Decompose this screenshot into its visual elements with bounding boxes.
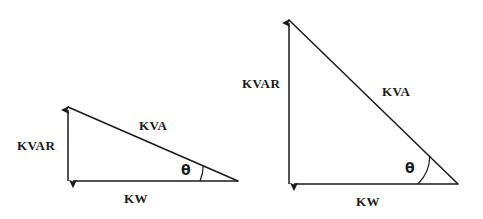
power-triangle-canvas (0, 0, 483, 219)
left-theta-arc (200, 166, 203, 182)
right-kva-vector (289, 20, 458, 184)
left-kva-label: KVA (139, 119, 167, 132)
left-kvar-label: KVAR (17, 139, 55, 152)
right-power-triangle (289, 20, 458, 184)
power-triangle-figure: KVAR KVA KW θ KVAR KVA KW θ (0, 0, 483, 219)
right-kva-label: KVA (382, 85, 410, 98)
right-kvar-label: KVAR (242, 77, 280, 90)
left-theta-label: θ (181, 163, 191, 177)
right-theta-arc (418, 156, 430, 184)
left-kw-label: KW (124, 192, 148, 205)
right-kw-label: KW (356, 195, 380, 208)
right-theta-label: θ (405, 161, 415, 175)
